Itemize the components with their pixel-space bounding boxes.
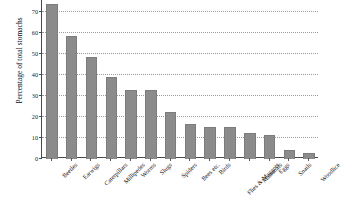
y-tick-label: 60 xyxy=(32,28,38,35)
y-tick-mark xyxy=(39,32,42,33)
y-tick-mark xyxy=(39,158,42,159)
x-tick-mark xyxy=(90,158,91,161)
y-tick-label: 40 xyxy=(32,70,38,77)
x-axis-line xyxy=(41,157,318,158)
y-tick-mark xyxy=(39,53,42,54)
x-tick-label: Snails xyxy=(297,161,313,177)
gridline xyxy=(42,74,318,75)
bar xyxy=(46,4,58,159)
y-tick-mark xyxy=(39,74,42,75)
x-tick-mark xyxy=(209,158,210,161)
y-tick-label: 0 xyxy=(35,155,38,162)
x-label-beetles: Beetles xyxy=(60,161,78,179)
y-tick-mark xyxy=(39,137,42,138)
plot-area: 010203040506070 BeetlesEarwigsCaterpilla… xyxy=(41,0,318,158)
gridline xyxy=(42,11,318,12)
gridline xyxy=(42,32,318,33)
x-tick-mark xyxy=(170,158,171,161)
gridline xyxy=(42,137,318,138)
y-tick-label: 50 xyxy=(32,49,38,56)
x-label-woodlice: Woodlice xyxy=(319,161,341,183)
y-tick-label: 30 xyxy=(32,91,38,98)
x-label-earwigs: Earwigs xyxy=(81,161,101,181)
y-tick-mark xyxy=(39,95,42,96)
x-tick-mark xyxy=(189,158,190,161)
bar xyxy=(165,112,177,159)
x-label-snails: Snails xyxy=(297,161,313,177)
x-tick-mark xyxy=(71,158,72,161)
bar xyxy=(106,77,118,159)
y-tick-mark xyxy=(39,116,42,117)
x-tick-mark xyxy=(308,158,309,161)
bar xyxy=(264,135,276,159)
bar xyxy=(125,90,137,159)
x-tick-mark xyxy=(229,158,230,161)
x-tick-mark xyxy=(249,158,250,161)
x-label-slugs: Slugs xyxy=(158,161,173,176)
gridline xyxy=(42,53,318,54)
bar xyxy=(244,133,256,159)
x-tick-mark xyxy=(130,158,131,161)
y-axis-title: Percentage of total stomachs xyxy=(15,0,24,136)
bar xyxy=(204,127,216,159)
bar xyxy=(66,36,78,159)
y-tick-mark xyxy=(39,11,42,12)
x-tick-label: Earwigs xyxy=(81,161,101,181)
x-tick-mark xyxy=(110,158,111,161)
bar xyxy=(284,150,296,159)
y-axis-line xyxy=(41,0,42,158)
gridline xyxy=(42,95,318,96)
x-tick-label: Slugs xyxy=(158,161,173,176)
bar xyxy=(145,90,157,159)
y-tick-label: 70 xyxy=(32,7,38,14)
x-tick-label: Spiders xyxy=(179,161,197,179)
y-tick-label: 20 xyxy=(32,112,38,119)
y-tick-label: 10 xyxy=(32,133,38,140)
bar xyxy=(185,124,197,159)
x-tick-label: Woodlice xyxy=(319,161,341,183)
x-label-spiders: Spiders xyxy=(179,161,197,179)
bar xyxy=(224,127,236,159)
x-tick-mark xyxy=(269,158,270,161)
bar xyxy=(86,57,98,159)
x-tick-label: Beetles xyxy=(60,161,78,179)
x-tick-label: Birds xyxy=(217,161,232,176)
bar xyxy=(303,153,315,159)
x-label-birds: Birds xyxy=(217,161,232,176)
gridline xyxy=(42,116,318,117)
x-tick-mark xyxy=(150,158,151,161)
x-tick-mark xyxy=(51,158,52,161)
x-tick-mark xyxy=(288,158,289,161)
